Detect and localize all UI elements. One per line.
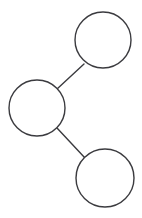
diagram-canvas bbox=[0, 0, 142, 218]
node-link-diagram bbox=[0, 0, 142, 218]
node-bottom-right[interactable] bbox=[76, 149, 134, 207]
node-layer bbox=[9, 12, 134, 207]
edge-middle-to-top[interactable] bbox=[57, 64, 84, 89]
edge-middle-to-bottom[interactable] bbox=[57, 128, 85, 158]
node-middle-left[interactable] bbox=[9, 80, 65, 136]
node-top-right[interactable] bbox=[75, 12, 131, 68]
